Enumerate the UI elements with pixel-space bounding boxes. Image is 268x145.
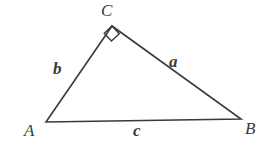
side-label-c: c xyxy=(133,122,141,139)
right-triangle-figure: C A B a b c xyxy=(0,0,268,145)
vertex-label-c: C xyxy=(101,2,112,19)
side-label-b: b xyxy=(53,60,62,77)
vertex-label-a: A xyxy=(24,122,34,139)
vertex-label-b: B xyxy=(245,120,255,137)
triangle-outline xyxy=(46,26,241,122)
side-label-a: a xyxy=(169,53,178,70)
